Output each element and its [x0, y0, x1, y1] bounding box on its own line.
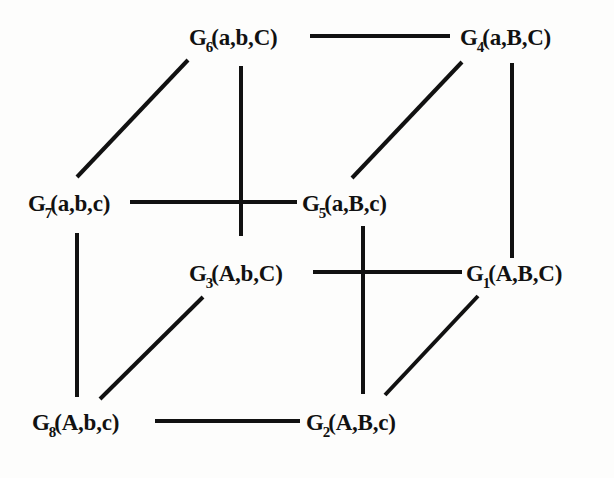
vertex-genotype-g7: (a,b,c) — [50, 191, 110, 216]
vertex-genotype-g2: (A,B,c) — [328, 410, 396, 435]
vertex-genotype-g5: (a,B,c) — [324, 191, 386, 216]
vertex-symbol-g7: G — [28, 191, 46, 216]
vertex-genotype-g6: (a,b,C) — [211, 25, 277, 50]
vertex-label-g6: G6(a,b,C) — [189, 26, 278, 49]
vertex-subscript-g1: 1 — [483, 275, 491, 291]
cube-edges-layer — [0, 0, 614, 478]
cube-edge-g7-g6 — [77, 60, 188, 177]
vertex-label-g7: G7(a,b,c) — [28, 192, 110, 215]
vertex-symbol-g8: G — [32, 410, 50, 435]
vertex-symbol-g1: G — [466, 261, 484, 286]
vertex-label-g2: G2(A,B,c) — [306, 411, 396, 434]
vertex-symbol-g2: G — [306, 410, 324, 435]
vertex-label-g1: G1(A,B,C) — [466, 262, 562, 285]
vertex-label-g4: G4(a,B,C) — [460, 26, 551, 49]
cube-edge-g2-g1 — [385, 296, 478, 395]
vertex-subscript-g2: 2 — [323, 424, 331, 440]
vertex-subscript-g7: 7 — [45, 205, 53, 221]
cube-diagram-canvas: G1(A,B,C)G2(A,B,c)G3(A,b,C)G4(a,B,C)G5(a… — [0, 0, 614, 478]
cube-edge-g8-g3 — [100, 297, 203, 399]
vertex-subscript-g4: 4 — [477, 39, 485, 55]
vertex-label-g8: G8(A,b,c) — [32, 411, 119, 434]
vertex-label-g5: G5(a,B,c) — [302, 192, 387, 215]
vertex-symbol-g4: G — [460, 25, 478, 50]
vertex-symbol-g5: G — [302, 191, 320, 216]
vertex-symbol-g6: G — [189, 25, 207, 50]
vertex-genotype-g3: (A,b,C) — [211, 261, 282, 286]
vertex-genotype-g8: (A,b,c) — [54, 410, 119, 435]
vertex-label-g3: G3(A,b,C) — [189, 262, 283, 285]
vertex-subscript-g6: 6 — [206, 39, 214, 55]
vertex-subscript-g5: 5 — [319, 205, 327, 221]
vertex-genotype-g4: (a,B,C) — [482, 25, 551, 50]
cube-edge-g5-g4 — [352, 62, 462, 178]
vertex-subscript-g8: 8 — [49, 424, 57, 440]
vertex-subscript-g3: 3 — [206, 275, 214, 291]
vertex-symbol-g3: G — [189, 261, 207, 286]
vertex-genotype-g1: (A,B,C) — [488, 261, 562, 286]
